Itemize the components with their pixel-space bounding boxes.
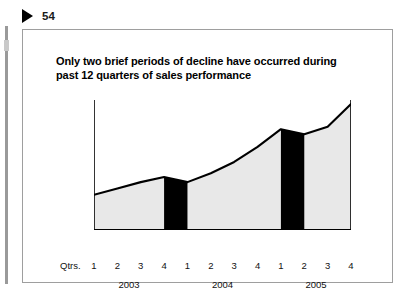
quarter-tick-label: 4 bbox=[157, 260, 171, 271]
quarter-tick-label: 4 bbox=[251, 260, 265, 271]
triangle-right-icon bbox=[22, 9, 33, 23]
chart-title: Only two brief periods of decline have o… bbox=[56, 55, 356, 82]
slide-number: 54 bbox=[42, 10, 55, 22]
sales-area-chart bbox=[94, 100, 351, 230]
quarter-tick-label: 3 bbox=[134, 260, 148, 271]
quarter-tick-label: 1 bbox=[274, 260, 288, 271]
slide-header: 54 bbox=[22, 8, 55, 24]
page-edge-artifact-secondary bbox=[4, 40, 9, 51]
quarter-tick-label: 2 bbox=[204, 260, 218, 271]
quarter-tick-label: 3 bbox=[321, 260, 335, 271]
quarter-tick-label: 1 bbox=[180, 260, 194, 271]
decline-highlight-band-1 bbox=[164, 177, 187, 230]
slide-frame: Only two brief periods of decline have o… bbox=[22, 29, 393, 283]
page-edge-artifact bbox=[5, 26, 8, 284]
qtrs-caption: Qtrs. bbox=[60, 260, 81, 271]
quarter-tick-label: 3 bbox=[227, 260, 241, 271]
chart-axis-labels: Qtrs. 123412341234 200320042005 bbox=[23, 231, 394, 283]
quarter-tick-label: 1 bbox=[87, 260, 101, 271]
quarter-tick-label: 4 bbox=[344, 260, 358, 271]
quarter-tick-label: 2 bbox=[110, 260, 124, 271]
chart-plot-area bbox=[94, 100, 351, 230]
quarter-tick-label: 2 bbox=[297, 260, 311, 271]
decline-highlight-band-2 bbox=[281, 129, 304, 230]
year-label: 2005 bbox=[296, 279, 336, 290]
year-label: 2004 bbox=[203, 279, 243, 290]
year-label: 2003 bbox=[109, 279, 149, 290]
